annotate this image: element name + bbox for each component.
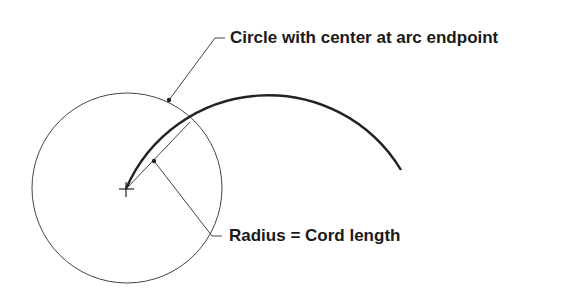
diagram-canvas: Circle with center at arc endpoint Radiu…	[0, 0, 580, 296]
arc	[126, 95, 401, 189]
radius-leader-dot	[152, 159, 156, 163]
circle-label: Circle with center at arc endpoint	[230, 29, 498, 46]
center-mark-icon	[119, 182, 134, 197]
radius-label: Radius = Cord length	[229, 227, 400, 244]
radius-leader	[154, 161, 222, 236]
circle-leader-dot	[167, 98, 171, 102]
chord-line	[126, 122, 190, 189]
circle-leader	[169, 38, 225, 100]
